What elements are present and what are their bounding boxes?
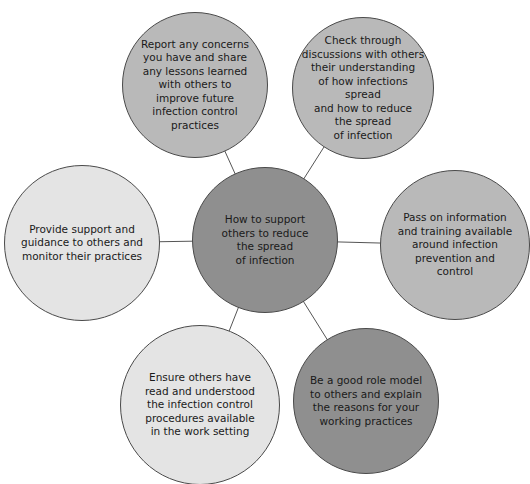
central-topic: How to support others to reduce the spre…: [192, 167, 338, 313]
node-text: Provide support and guidance to others a…: [21, 223, 143, 264]
node-report-concerns: Report any concerns you have and share a…: [122, 12, 268, 158]
node-ensure-procedures: Ensure others have read and understood t…: [120, 325, 280, 484]
node-check-understanding: Check through discussions with others th…: [292, 17, 434, 159]
node-text: Be a good role model to others and expla…: [310, 374, 422, 428]
node-text: Check through discussions with others th…: [299, 34, 427, 142]
node-pass-on-information: Pass on information and training availab…: [380, 170, 530, 320]
node-text: Report any concerns you have and share a…: [141, 38, 249, 133]
node-provide-support: Provide support and guidance to others a…: [4, 165, 160, 321]
node-role-model: Be a good role model to others and expla…: [293, 328, 439, 474]
central-topic-text: How to support others to reduce the spre…: [222, 213, 309, 267]
node-text: Pass on information and training availab…: [398, 211, 513, 279]
node-text: Ensure others have read and understood t…: [145, 371, 255, 439]
diagram-canvas: Report any concerns you have and share a…: [0, 0, 530, 484]
